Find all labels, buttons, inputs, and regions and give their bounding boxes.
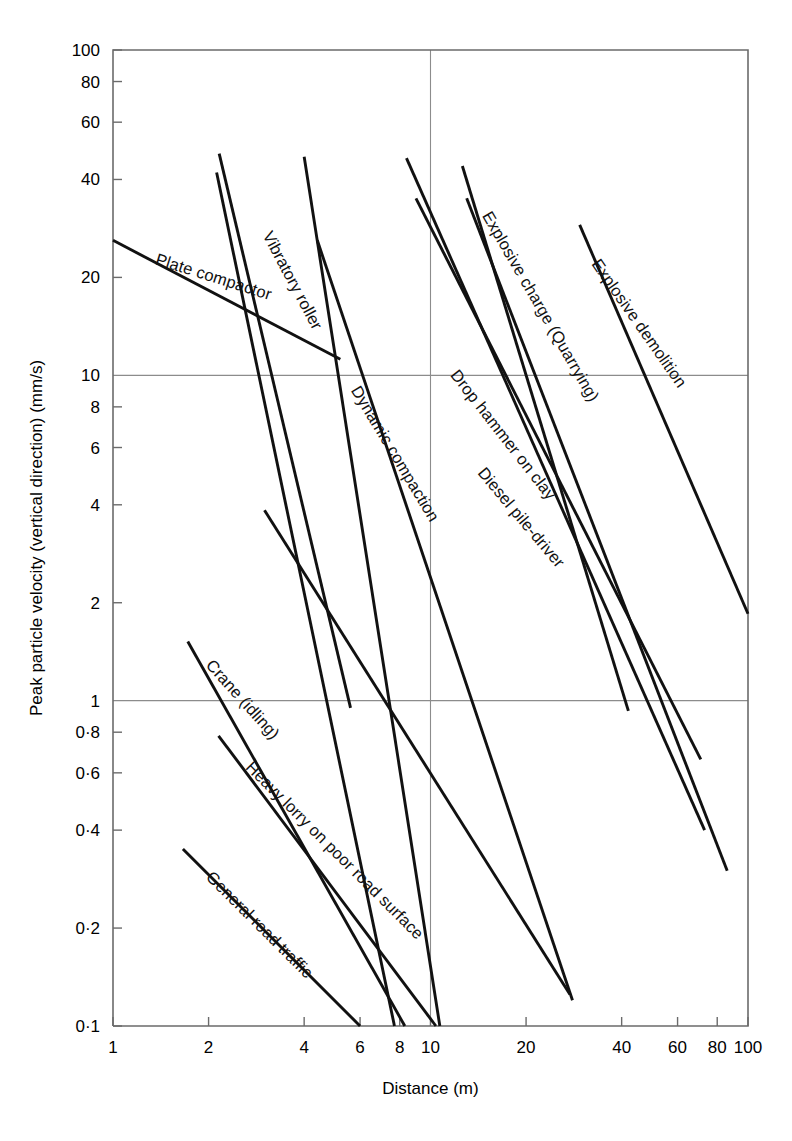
series-line-heavy-lorry-on-poor-road-surface	[219, 736, 436, 1026]
series-label-heavy-lorry-on-poor-road-surface: Heavy lorry on poor road surface	[243, 758, 428, 943]
xtick-label-40: 40	[612, 1038, 631, 1057]
ytick-label-0.1: 0·1	[75, 1017, 100, 1036]
xtick-label-10: 10	[421, 1038, 440, 1057]
xtick-label-2: 2	[204, 1038, 213, 1057]
ytick-label-100: 100	[72, 41, 100, 60]
ytick-label-20: 20	[81, 268, 100, 287]
ytick-label-1: 1	[91, 692, 100, 711]
xtick-label-6: 6	[355, 1038, 364, 1057]
ytick-label-80: 80	[81, 73, 100, 92]
ytick-label-40: 40	[81, 170, 100, 189]
xtick-label-80: 80	[708, 1038, 727, 1057]
chart-page: Plate compactorVibratory rollerDynamic c…	[0, 0, 792, 1141]
series-label-general-road-traffic: General road traffic	[203, 867, 317, 981]
series-label-crane-idling: Crane (idling)	[203, 656, 284, 743]
series-line-explosive-charge-lower-bound	[467, 198, 728, 870]
ytick-label-2: 2	[91, 594, 100, 613]
series-line-dynamic-compaction-lower-bound	[317, 240, 572, 1000]
ytick-label-8: 8	[91, 398, 100, 417]
ytick-label-6: 6	[91, 439, 100, 458]
tick-labels: 0·10·20·40·60·81246810204060801001246810…	[72, 41, 763, 1057]
ytick-label-10: 10	[81, 366, 100, 385]
series-label-diesel-pile-driver: Diesel pile-driver	[475, 464, 569, 571]
xtick-label-20: 20	[517, 1038, 536, 1057]
xtick-label-60: 60	[668, 1038, 687, 1057]
series-label-explosive-demolition: Explosive demolition	[588, 255, 690, 390]
series-label-dynamic-compaction: Dynamic compaction	[348, 382, 443, 524]
ytick-label-0.2: 0·2	[75, 919, 100, 938]
ytick-label-0.8: 0·8	[75, 723, 100, 742]
vibration-attenuation-chart: Plate compactorVibratory rollerDynamic c…	[0, 0, 792, 1141]
ytick-label-0.6: 0·6	[75, 764, 100, 783]
series-line-vibratory-roller	[219, 154, 350, 708]
series-label-plate-compactor: Plate compactor	[153, 250, 274, 304]
x-axis-title: Distance (m)	[382, 1079, 478, 1098]
xtick-label-8: 8	[395, 1038, 404, 1057]
xtick-label-4: 4	[299, 1038, 308, 1057]
ytick-label-60: 60	[81, 113, 100, 132]
series-labels: Plate compactorVibratory rollerDynamic c…	[153, 208, 690, 981]
xtick-label-1: 1	[108, 1038, 117, 1057]
ytick-label-4: 4	[91, 496, 100, 515]
ytick-label-0.4: 0·4	[75, 821, 100, 840]
xtick-label-100: 100	[734, 1038, 762, 1057]
y-axis-title: Peak particle velocity (vertical directi…	[27, 360, 46, 716]
